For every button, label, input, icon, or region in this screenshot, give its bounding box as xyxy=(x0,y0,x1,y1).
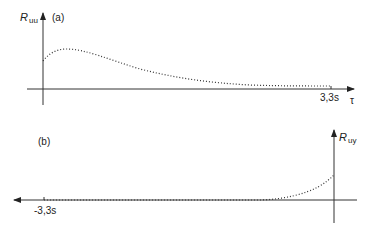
ruu-axis-label: Ruu xyxy=(20,11,38,25)
ruu-main: R xyxy=(20,11,28,23)
tick-b-label: -3,3s xyxy=(34,205,56,216)
panel-b-label: (b) xyxy=(38,136,50,147)
panel-b-curve xyxy=(44,175,334,200)
panel-a-curve xyxy=(43,49,331,86)
panel-b-axes xyxy=(14,130,357,223)
panel-a-axes xyxy=(27,13,354,105)
panel-a-label: (a) xyxy=(52,12,64,23)
ruy-main: R xyxy=(339,131,347,143)
ruy-axis-label: Ruy xyxy=(339,131,356,145)
tick-a-label: 3,3s xyxy=(320,92,339,103)
tau-axis-label: τ xyxy=(350,95,354,106)
chart-canvas xyxy=(0,0,376,234)
ruy-sub: uy xyxy=(348,136,356,145)
ruu-sub: uu xyxy=(29,16,38,25)
